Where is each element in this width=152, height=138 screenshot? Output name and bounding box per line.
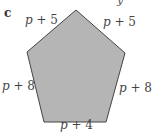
side-label-top-right: p + 5 bbox=[103, 15, 136, 29]
side-label-top-left: p + 5 bbox=[25, 13, 58, 27]
figure-canvas: y c p + 5 p + 5 p + 8 p + 8 p + 4 bbox=[0, 0, 152, 138]
side-label-left: p + 8 bbox=[2, 79, 35, 93]
side-label-right: p + 8 bbox=[119, 81, 152, 95]
side-label-bottom: p + 4 bbox=[60, 118, 93, 132]
